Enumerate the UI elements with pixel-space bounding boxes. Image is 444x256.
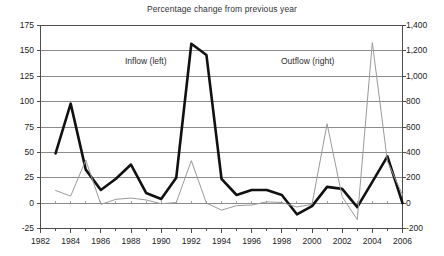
y-left-tick-label: -25 [2, 223, 34, 233]
y-left-tick-label: 75 [2, 122, 34, 132]
series-label-inflow: Inflow (left) [125, 56, 167, 66]
x-tick-label: 2000 [295, 236, 329, 246]
y-right-tick-label: 1,400 [406, 20, 427, 30]
y-left-tick-label: 175 [2, 20, 34, 30]
x-tick-label: 1992 [174, 236, 208, 246]
x-tick-label: 1984 [54, 236, 88, 246]
data-series-group [56, 43, 403, 220]
y-left-tick-label: 50 [2, 147, 34, 157]
y-right-tick-label: 1,000 [406, 71, 427, 81]
x-tick-label: 1996 [235, 236, 269, 246]
y-right-tick-label: 600 [406, 122, 420, 132]
y-right-tick-label: 200 [406, 172, 420, 182]
x-tick-label: 1994 [205, 236, 239, 246]
y-right-tick-label: -200 [406, 223, 423, 233]
y-left-tick-label: 25 [2, 172, 34, 182]
chart-container: Percentage change from previous year 175… [0, 0, 444, 256]
x-tick-label: 1998 [265, 236, 299, 246]
x-tick-label: 2002 [325, 236, 359, 246]
y-right-tick-label: 0 [406, 198, 411, 208]
x-tick-label: 2006 [386, 236, 420, 246]
series-line-inflow [56, 44, 403, 215]
y-left-tick-label: 125 [2, 71, 34, 81]
x-tick-label: 2004 [355, 236, 389, 246]
x-tick-label: 1990 [144, 236, 178, 246]
y-right-tick-label: 400 [406, 147, 420, 157]
chart-plot-area [0, 0, 444, 256]
x-tick-label: 1986 [84, 236, 118, 246]
series-line-outflow [56, 43, 403, 220]
y-left-tick-label: 0 [2, 198, 34, 208]
x-tick-label: 1988 [114, 236, 148, 246]
series-label-outflow: Outflow (right) [281, 56, 334, 66]
y-left-tick-label: 100 [2, 96, 34, 106]
x-tick-label: 1982 [24, 236, 58, 246]
y-left-tick-label: 150 [2, 45, 34, 55]
y-right-tick-label: 800 [406, 96, 420, 106]
y-left-tick-marks-group [37, 26, 41, 229]
y-right-tick-label: 1,200 [406, 45, 427, 55]
